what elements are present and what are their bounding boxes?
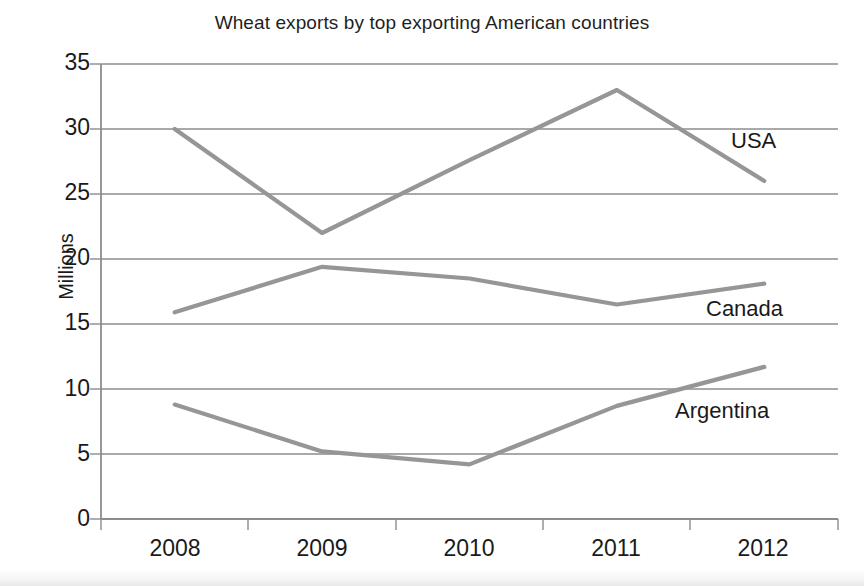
- scan-artifact-strip: [0, 568, 864, 586]
- line-chart: Wheat exports by top exporting American …: [0, 0, 864, 586]
- axes: [90, 64, 838, 530]
- series-line-canada: [175, 267, 765, 313]
- data-series-group: [175, 90, 765, 464]
- plot-area: [0, 0, 864, 586]
- series-line-argentina: [175, 367, 765, 465]
- gridlines: [101, 64, 838, 454]
- series-line-usa: [175, 90, 765, 233]
